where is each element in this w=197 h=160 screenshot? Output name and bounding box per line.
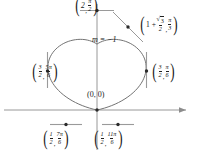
x-axis-arrow-icon [179, 107, 186, 113]
right-r-numerator: 3 [159, 64, 162, 71]
paren-close: ) [93, 0, 97, 14]
slope-point-theta-numerator: π [168, 17, 171, 24]
point-origin [95, 108, 98, 111]
point-label-top: ( 2 , π 2 ) [74, 0, 99, 14]
slope-point-lead: 1 + [146, 21, 156, 29]
point-slope-neg-one [126, 25, 129, 28]
comma: , [104, 141, 107, 148]
paren-open: ( [152, 63, 156, 80]
paren-close: ) [118, 130, 122, 147]
point-label-right: ( 3 2 , π 6 ) [151, 62, 176, 80]
slope-point-radicand: 3 [160, 16, 164, 24]
point-label-slope-negative-one: ( 1 + √ 3 2 , π 3 ) [139, 15, 179, 33]
slope-point-sqrt-fraction: √ 3 2 [156, 16, 165, 32]
left-r-numerator: 3 [39, 64, 42, 71]
point-label-left: ( 3 2 , 5π 6 ) [31, 62, 59, 80]
comma: , [165, 27, 168, 34]
point-right [145, 69, 148, 72]
slope-point-theta-denominator: 3 [168, 24, 171, 32]
right-theta-denominator: 6 [166, 71, 169, 79]
paren-open: ( [140, 16, 144, 33]
point-label-origin: (0, 0) [87, 91, 104, 99]
paren-open: ( [75, 0, 79, 14]
slope-point-sqrt: √ 3 [156, 16, 164, 24]
bottom-left-r-numerator: 1 [50, 131, 53, 138]
bottom-left-theta-numerator: 7π [57, 131, 63, 138]
polar-cardioid-figure: ( 2 , π 2 ) ( 1 + √ 3 2 , [0, 0, 197, 160]
slope-point-theta-fraction: π 3 [168, 17, 172, 32]
bottom-left-theta-fraction: 7π 6 [56, 131, 63, 146]
paren-close: ) [173, 16, 177, 33]
slope-annotation: m = −1 [92, 36, 117, 44]
paren-close: ) [54, 63, 58, 80]
point-label-bottom-right: ( 1 2 , 11π 6 ) [93, 129, 124, 147]
comma: , [42, 74, 45, 81]
right-theta-fraction: π 6 [165, 64, 169, 79]
bottom-left-theta-denominator: 6 [58, 138, 61, 146]
left-theta-fraction: 5π 6 [45, 64, 52, 79]
top-theta-denominator: 2 [88, 5, 91, 13]
paren-open: ( [43, 130, 47, 147]
comma: , [53, 141, 56, 148]
point-label-bottom-left: ( 1 2 , 7π 6 ) [42, 129, 70, 147]
left-theta-denominator: 6 [47, 71, 50, 79]
bottom-right-r-numerator: 1 [101, 131, 104, 138]
paren-open: ( [94, 130, 98, 147]
paren-close: ) [65, 130, 69, 147]
bottom-right-theta-denominator: 6 [110, 138, 113, 146]
bottom-right-theta-numerator: 11π [108, 131, 117, 138]
paren-close: ) [170, 63, 174, 80]
comma: , [162, 74, 165, 81]
top-theta-fraction: π 2 [88, 0, 92, 13]
comma: , [85, 8, 88, 15]
slope-point-sqrt-denominator: 2 [159, 25, 162, 33]
paren-open: ( [32, 63, 36, 80]
bottom-right-theta-fraction: 11π 6 [107, 131, 117, 146]
right-theta-numerator: π [166, 64, 169, 71]
left-theta-numerator: 5π [46, 64, 52, 71]
